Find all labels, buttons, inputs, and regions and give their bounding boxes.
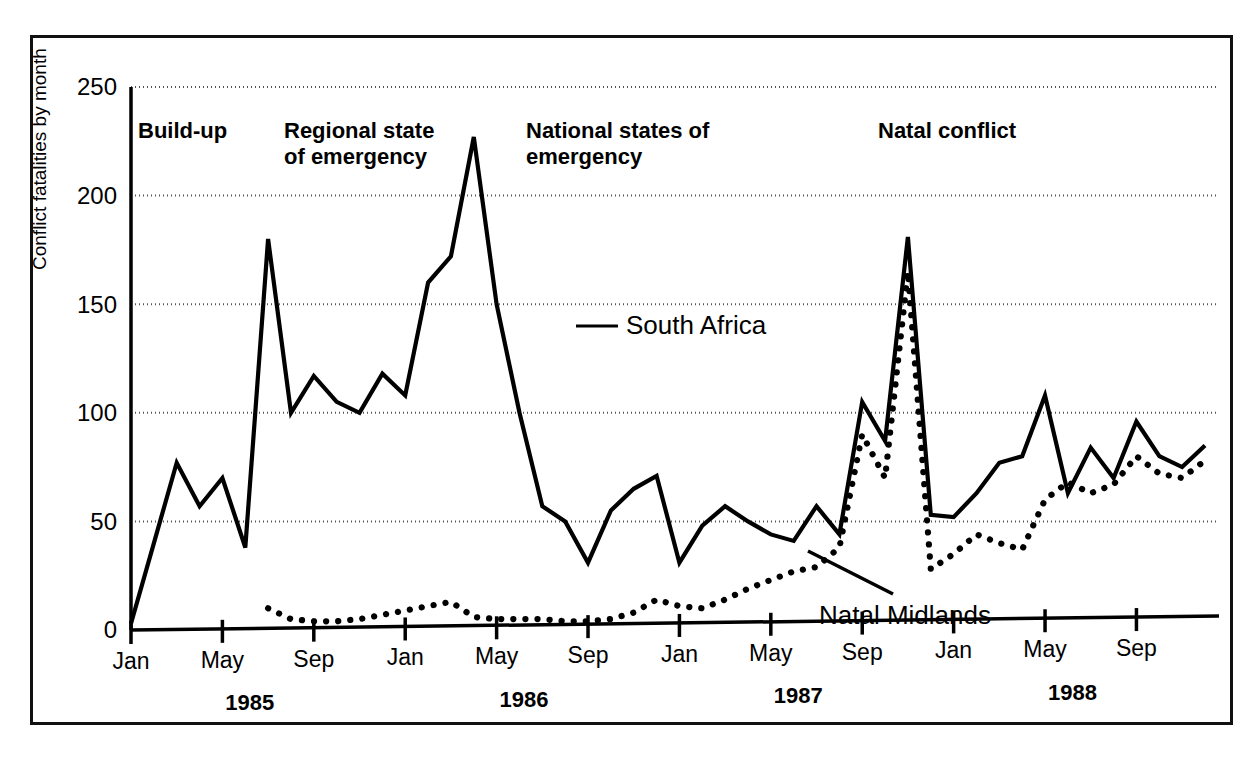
x-axis-line	[131, 616, 1219, 630]
x-tick-label-7: May	[726, 640, 816, 667]
series-label-south-africa: South Africa	[626, 310, 766, 341]
annotation-natal-conflict: Natal conflict	[878, 118, 1016, 144]
x-year-label-1988: 1988	[1012, 680, 1132, 706]
y-tick-label-100: 100	[47, 399, 117, 427]
x-tick-label-1: May	[177, 647, 267, 674]
y-tick-label-0: 0	[47, 616, 117, 644]
y-tick-label-250: 250	[47, 73, 117, 101]
annotation-regional-state-of-emergency: Regional state of emergency	[284, 118, 434, 170]
callout-leader-natal-midlands	[808, 551, 893, 594]
x-tick-label-6: Jan	[634, 641, 724, 668]
y-axis-title: Conflict fatalities by month	[29, 10, 51, 270]
x-year-label-1985: 1985	[190, 690, 310, 716]
x-tick-label-0: Jan	[86, 648, 176, 675]
x-tick-label-3: Jan	[360, 644, 450, 671]
annotation-national-line2: emergency	[526, 144, 709, 170]
x-tick-label-9: Jan	[909, 637, 999, 664]
annotation-regional-line1: Regional state	[284, 118, 434, 144]
x-tick-label-4: May	[452, 643, 542, 670]
chart-frame: Conflict fatalities by month 250 200 150…	[30, 35, 1233, 725]
series-line-south-africa	[131, 137, 1205, 624]
x-tick-label-2: Sep	[269, 646, 359, 673]
annotation-natal-line1: Natal conflict	[878, 118, 1016, 144]
annotation-national-states-of-emergency: National states of emergency	[526, 118, 709, 170]
y-tick-label-150: 150	[47, 291, 117, 319]
x-tick-label-5: Sep	[543, 642, 633, 669]
annotation-regional-line2: of emergency	[284, 144, 434, 170]
annotation-build-up: Build-up	[138, 118, 227, 144]
annotation-national-line1: National states of	[526, 118, 709, 144]
y-tick-label-50: 50	[47, 508, 117, 536]
y-tick-label-200: 200	[47, 182, 117, 210]
x-tick-label-11: Sep	[1091, 635, 1181, 662]
x-year-label-1986: 1986	[464, 687, 584, 713]
series-label-natal-midlands: Natal Midlands	[819, 600, 991, 631]
annotation-build-up-line1: Build-up	[138, 118, 227, 144]
chart-page: Conflict fatalities by month 250 200 150…	[0, 0, 1251, 778]
x-year-label-1987: 1987	[738, 683, 858, 709]
x-tick-label-10: May	[1000, 636, 1090, 663]
x-tick-label-8: Sep	[817, 639, 907, 666]
